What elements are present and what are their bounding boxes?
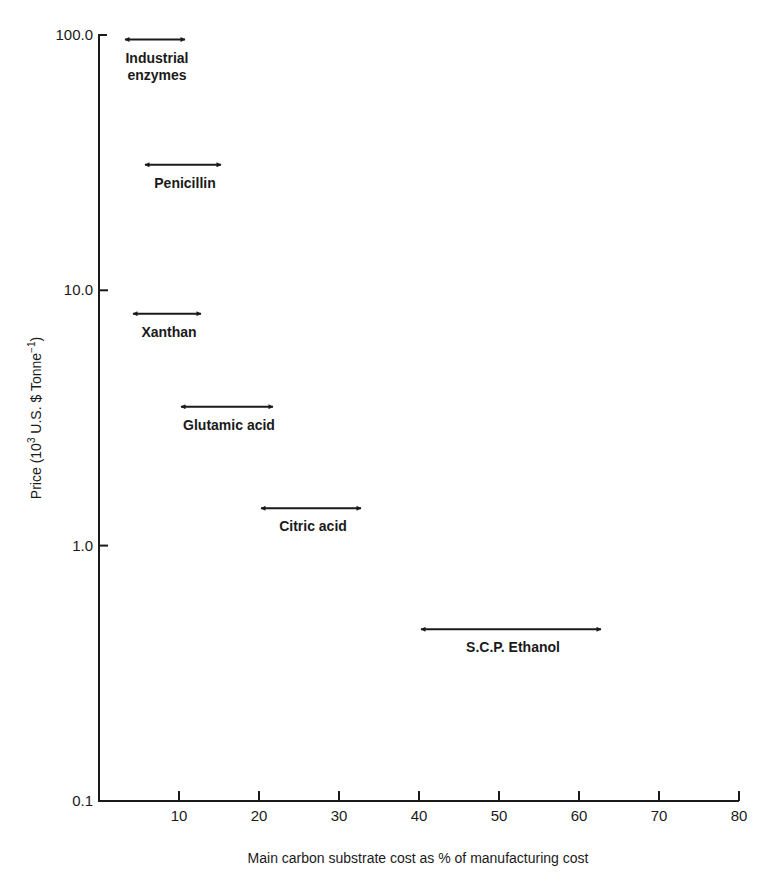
y-axis-title: Price (103 U.S. $ Tonne−1) bbox=[26, 337, 44, 499]
x-tick-label: 80 bbox=[731, 807, 748, 824]
range-label: Citric acid bbox=[279, 518, 347, 534]
range-item: Glutamic acid bbox=[181, 407, 275, 433]
range-item: S.C.P. Ethanol bbox=[421, 629, 601, 655]
x-axis-ticks: 1020304050607080 bbox=[171, 791, 748, 824]
x-axis-title: Main carbon substrate cost as % of manuf… bbox=[248, 850, 589, 866]
x-tick-label: 30 bbox=[331, 807, 348, 824]
x-tick-label: 50 bbox=[491, 807, 508, 824]
x-tick-label: 20 bbox=[251, 807, 268, 824]
y-tick-label: 1.0 bbox=[72, 537, 93, 554]
y-tick-label: 0.1 bbox=[72, 792, 93, 809]
x-tick-label: 60 bbox=[571, 807, 588, 824]
y-axis-ticks: 100.010.01.00.1 bbox=[55, 26, 108, 809]
y-tick-label: 10.0 bbox=[64, 281, 93, 298]
range-label: Xanthan bbox=[141, 324, 196, 340]
range-label: Glutamic acid bbox=[183, 417, 275, 433]
range-item: Industrialenzymes bbox=[125, 40, 189, 83]
range-label: S.C.P. Ethanol bbox=[466, 639, 560, 655]
range-label: enzymes bbox=[127, 67, 186, 83]
range-label: Industrial bbox=[125, 50, 188, 66]
x-tick-label: 10 bbox=[171, 807, 188, 824]
range-arrows: IndustrialenzymesPenicillinXanthanGlutam… bbox=[125, 40, 601, 656]
range-label: Penicillin bbox=[154, 175, 215, 191]
x-tick-label: 70 bbox=[651, 807, 668, 824]
y-tick-label: 100.0 bbox=[55, 26, 93, 43]
range-item: Xanthan bbox=[133, 314, 201, 340]
chart: 100.010.01.00.1 1020304050607080 Industr… bbox=[0, 0, 764, 885]
range-item: Penicillin bbox=[145, 165, 221, 191]
range-item: Citric acid bbox=[261, 508, 361, 534]
x-tick-label: 40 bbox=[411, 807, 428, 824]
